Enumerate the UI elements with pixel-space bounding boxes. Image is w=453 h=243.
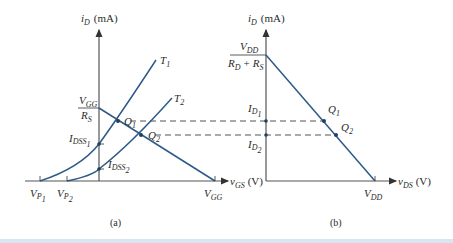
rd-plus-rs-denominator: RD+RS: [227, 57, 263, 72]
vgs-axis-label: vGS(V): [230, 175, 263, 190]
q1-point-a: [116, 119, 120, 123]
vgg-label: VGG: [204, 187, 223, 202]
idss1-label: IDSS1: [68, 132, 90, 149]
vgg-over-rs-numerator: VGG: [79, 94, 98, 109]
vp1-label: VP1: [30, 187, 46, 204]
q2-point-a: [139, 133, 143, 137]
vds-axis-label: vDS(V): [398, 175, 431, 190]
jfet-bias-diagram: iD(mA) T1 T2 VGG RS Q1 Q2 IDSS1 IDSS2 VP: [0, 0, 453, 243]
caption-a: (a): [110, 217, 121, 229]
vdd-label: VDD: [364, 187, 383, 202]
curve-label-t1: T1: [160, 54, 170, 69]
panel-a-y-axis-label: iD(mA): [81, 12, 118, 27]
q2-label-b: Q2: [341, 121, 353, 136]
id1-label: ID1: [247, 102, 261, 119]
q1-point-b: [322, 119, 326, 123]
idss2-label: IDSS2: [107, 158, 129, 175]
bottom-border: [0, 239, 453, 243]
load-line: [266, 55, 375, 181]
caption-b: (b): [330, 217, 342, 229]
panel-b: iD(mA) vGS(V) vDS(V) VDD RD+RS Q1 Q2 ID1…: [227, 12, 431, 229]
id1-point: [264, 119, 268, 123]
q2-point-b: [334, 133, 338, 137]
vgg-over-rs-denominator: RS: [80, 109, 92, 124]
curve-label-t2: T2: [174, 92, 184, 107]
transfer-curve-t1: [40, 60, 156, 181]
vp2-label: VP2: [57, 187, 73, 204]
vdd-numerator: VDD: [240, 40, 259, 55]
id2-label: ID2: [247, 138, 261, 155]
id2-point: [264, 133, 268, 137]
panel-b-y-axis-label: iD(mA): [248, 12, 285, 27]
panel-a: iD(mA) T1 T2 VGG RS Q1 Q2 IDSS1 IDSS2 VP: [25, 12, 228, 229]
q1-label-b: Q1: [328, 103, 340, 118]
